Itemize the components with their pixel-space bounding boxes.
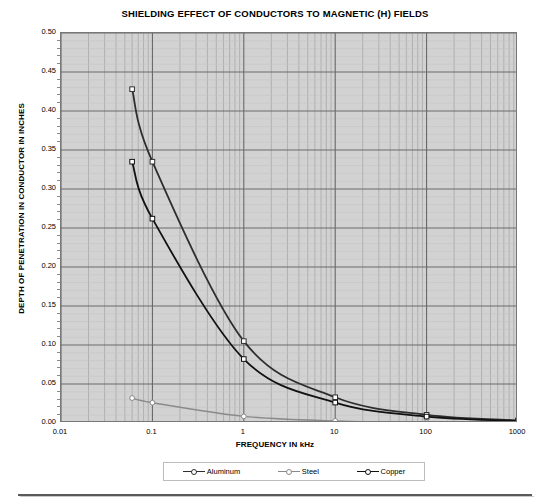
data-point-aluminum — [333, 395, 338, 400]
legend-marker-icon — [183, 468, 205, 476]
data-point-aluminum — [150, 159, 155, 164]
data-point-aluminum — [130, 87, 135, 92]
y-tick-label: 0.05 — [22, 379, 56, 387]
data-point-steel — [333, 418, 338, 422]
y-tick-label: 0.10 — [22, 340, 56, 348]
x-tick-label: 0.1 — [121, 427, 181, 436]
legend-entry-steel[interactable]: Steel — [278, 467, 319, 476]
x-axis-title: FREQUENCY IN kHz — [0, 440, 550, 449]
data-point-copper — [516, 419, 517, 422]
x-tick-label: 1 — [213, 427, 273, 436]
legend-label: Steel — [302, 467, 319, 476]
y-tick-label: 0.50 — [22, 28, 56, 36]
data-point-copper — [424, 414, 429, 419]
legend-dot — [365, 469, 371, 475]
x-tick-label: 100 — [396, 427, 456, 436]
legend-entry-copper[interactable]: Copper — [357, 467, 406, 476]
x-tick-label: 0.01 — [30, 427, 90, 436]
y-tick-label: 0.25 — [22, 223, 56, 231]
data-point-copper — [242, 357, 247, 362]
y-tick-label: 0.20 — [22, 262, 56, 270]
y-tick-label: 0.35 — [22, 145, 56, 153]
data-point-aluminum — [242, 339, 247, 344]
x-tick-label: 10 — [304, 427, 364, 436]
y-axis-tick-labels: 0.000.050.100.150.200.250.300.350.400.45… — [18, 32, 56, 422]
legend-dot — [191, 469, 197, 475]
legend-label: Copper — [381, 467, 406, 476]
y-tick-label: 0.45 — [22, 67, 56, 75]
bottom-divider-shadow — [20, 496, 534, 497]
chart-title: SHIELDING EFFECT OF CONDUCTORS TO MAGNET… — [0, 8, 550, 19]
y-tick-label: 0.00 — [22, 418, 56, 426]
legend-entry-aluminum[interactable]: Aluminum — [183, 467, 240, 476]
series-line-aluminum — [132, 89, 517, 420]
chart-legend: AluminumSteelCopper — [163, 462, 425, 481]
legend-dot — [286, 469, 292, 475]
x-axis-tick-labels: 0.010.11101001000 — [60, 427, 517, 439]
data-point-steel — [241, 414, 246, 419]
data-point-steel — [130, 396, 135, 401]
plot-svg — [61, 33, 517, 422]
y-tick-label: 0.40 — [22, 106, 56, 114]
y-tick-label: 0.15 — [22, 301, 56, 309]
x-tick-label: 1000 — [487, 427, 547, 436]
series-line-copper — [132, 162, 517, 421]
legend-marker-icon — [357, 468, 379, 476]
data-point-steel — [424, 420, 429, 422]
data-point-steel — [150, 400, 155, 405]
data-point-copper — [150, 216, 155, 221]
legend-label: Aluminum — [207, 467, 240, 476]
data-point-copper — [130, 159, 135, 164]
legend-marker-icon — [278, 468, 300, 476]
plot-area — [60, 32, 517, 422]
data-point-copper — [333, 400, 338, 405]
plot-wrapper — [60, 32, 517, 422]
chart-figure: SHIELDING EFFECT OF CONDUCTORS TO MAGNET… — [0, 0, 550, 503]
y-tick-label: 0.30 — [22, 184, 56, 192]
